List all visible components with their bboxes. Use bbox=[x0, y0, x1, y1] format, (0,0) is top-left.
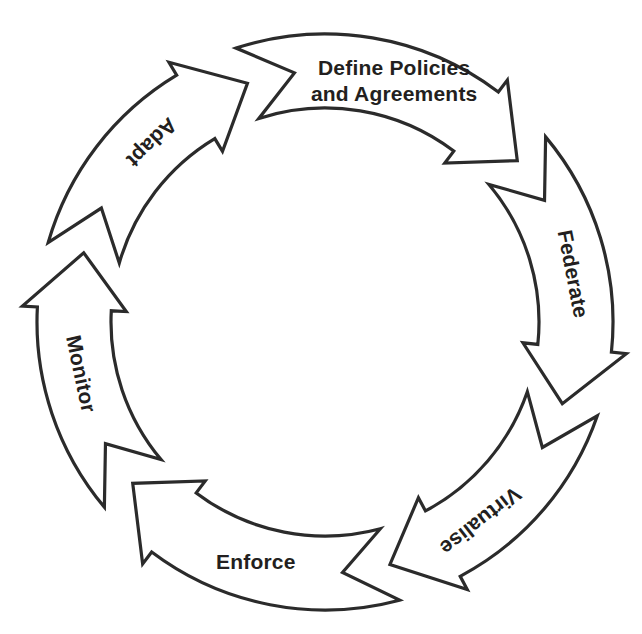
segment-virtualise[interactable] bbox=[390, 392, 597, 590]
cycle-diagram-canvas: Define Policiesand AgreementsFederateVir… bbox=[0, 0, 642, 634]
segments-group bbox=[22, 34, 626, 610]
segment-label-enforce: Enforce bbox=[216, 550, 296, 573]
segment-federate[interactable] bbox=[489, 137, 626, 404]
circular-process-diagram: Define Policiesand AgreementsFederateVir… bbox=[0, 0, 642, 634]
segment-enforce[interactable] bbox=[133, 481, 400, 610]
